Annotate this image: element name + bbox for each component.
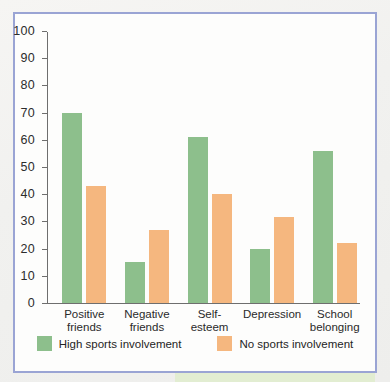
bar bbox=[188, 137, 208, 303]
bar bbox=[274, 217, 294, 303]
legend-swatch-icon bbox=[217, 336, 232, 351]
y-axis-tick: 80 bbox=[42, 85, 47, 86]
y-axis-tick-label: 40 bbox=[20, 187, 35, 201]
y-axis-tick-label: 20 bbox=[20, 242, 35, 256]
y-axis-tick: 0 bbox=[42, 303, 47, 304]
y-axis-tick: 50 bbox=[42, 167, 47, 168]
y-axis-tick: 30 bbox=[42, 221, 47, 222]
y-axis-tick-label: 70 bbox=[20, 106, 35, 120]
y-axis-tick: 70 bbox=[42, 113, 47, 114]
chart-legend: High sports involvementNo sports involve… bbox=[15, 336, 375, 351]
y-axis-tick: 60 bbox=[42, 140, 47, 141]
y-axis-line bbox=[47, 32, 48, 304]
bar-group: School belonging bbox=[313, 31, 357, 303]
y-axis-tick: 20 bbox=[42, 249, 47, 250]
bar bbox=[125, 262, 145, 303]
bar bbox=[149, 230, 169, 303]
bar bbox=[62, 113, 82, 303]
y-axis-tick-label: 30 bbox=[20, 214, 35, 228]
legend-item: No sports involvement bbox=[217, 336, 353, 351]
y-axis-tick-label: 10 bbox=[20, 269, 35, 283]
legend-item: High sports involvement bbox=[37, 336, 182, 351]
bar-group: Depression bbox=[250, 31, 294, 303]
y-axis-tick-label: 50 bbox=[20, 160, 35, 174]
y-axis-tick: 40 bbox=[42, 194, 47, 195]
legend-label: No sports involvement bbox=[239, 338, 353, 350]
y-axis-tick-label: 0 bbox=[28, 296, 35, 310]
y-axis-tick-label: 100 bbox=[13, 24, 35, 38]
plot-area: 0102030405060708090100 Positive friendsN… bbox=[47, 32, 360, 304]
bar-group: Positive friends bbox=[62, 31, 106, 303]
y-axis-tick-label: 60 bbox=[20, 133, 35, 147]
y-axis-tick: 100 bbox=[42, 31, 47, 32]
y-axis-tick-label: 90 bbox=[20, 51, 35, 65]
figure-frame: 0102030405060708090100 Positive friendsN… bbox=[13, 12, 377, 373]
legend-swatch-icon bbox=[37, 336, 52, 351]
bar bbox=[250, 249, 270, 303]
y-axis-tick-label: 80 bbox=[20, 78, 35, 92]
bar-group: Negative friends bbox=[125, 31, 169, 303]
x-axis-category-label: School belonging bbox=[297, 308, 373, 334]
x-axis-line bbox=[47, 303, 360, 304]
bar bbox=[86, 186, 106, 303]
y-axis-tick: 90 bbox=[42, 58, 47, 59]
bar bbox=[337, 243, 357, 303]
legend-label: High sports involvement bbox=[59, 338, 182, 350]
bar bbox=[212, 194, 232, 303]
y-axis-tick: 10 bbox=[42, 276, 47, 277]
bar-group: Self- esteem bbox=[188, 31, 232, 303]
bar bbox=[313, 151, 333, 303]
